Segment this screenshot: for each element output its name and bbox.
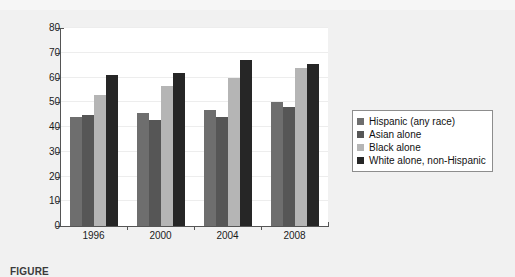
legend-item: Black alone	[357, 141, 486, 154]
bar	[82, 115, 94, 226]
bar	[240, 60, 252, 226]
x-tick-label: 2008	[261, 230, 328, 242]
y-axis-ticks: 01020304050607080	[18, 18, 60, 236]
legend-label: Asian alone	[369, 129, 421, 140]
bar	[216, 117, 228, 226]
y-tick-label: 80	[26, 23, 60, 33]
x-tick-label: 2000	[127, 230, 194, 242]
bar-chart: 01020304050607080 1996200020042008	[18, 18, 338, 244]
bar	[161, 86, 173, 226]
legend-swatch-icon	[357, 131, 364, 138]
legend-label: White alone, non-Hispanic	[369, 155, 486, 166]
legend-item: Asian alone	[357, 128, 486, 141]
bar	[70, 117, 82, 226]
y-tick-label: 60	[26, 73, 60, 83]
figure-container: 01020304050607080 1996200020042008 Hispa…	[0, 0, 515, 277]
legend-label: Hispanic (any race)	[369, 116, 455, 127]
y-tick-label: 50	[26, 97, 60, 107]
figure-caption: FIGURE	[10, 266, 49, 277]
legend-swatch-icon	[357, 157, 364, 164]
legend-label: Black alone	[369, 142, 421, 153]
bar	[137, 113, 149, 226]
bar	[295, 68, 307, 226]
bar	[94, 95, 106, 226]
figure-background-band	[0, 0, 515, 10]
y-tick-label: 30	[26, 147, 60, 157]
y-tick-label: 40	[26, 122, 60, 132]
bar	[228, 78, 240, 227]
y-tick-label: 10	[26, 196, 60, 206]
bar	[283, 107, 295, 226]
x-tick-label: 2004	[194, 230, 261, 242]
y-tick-label: 0	[26, 221, 60, 231]
bar	[106, 75, 118, 226]
bar	[307, 64, 319, 226]
legend-item: White alone, non-Hispanic	[357, 154, 486, 167]
legend-swatch-icon	[357, 118, 364, 125]
y-tick-label: 20	[26, 172, 60, 182]
bar-series-layer	[60, 28, 329, 226]
chart-legend: Hispanic (any race)Asian aloneBlack alon…	[352, 110, 493, 172]
legend-swatch-icon	[357, 144, 364, 151]
x-tick-label: 1996	[60, 230, 127, 242]
y-tick-label: 70	[26, 48, 60, 58]
bar	[271, 102, 283, 226]
legend-item: Hispanic (any race)	[357, 115, 486, 128]
bar	[204, 110, 216, 226]
bar	[173, 73, 185, 226]
bar	[149, 120, 161, 226]
